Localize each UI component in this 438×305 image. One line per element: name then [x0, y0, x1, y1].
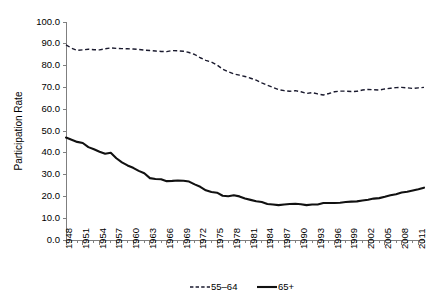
x-tick-label: 1990: [298, 228, 309, 249]
y-tick-label: 20.0: [42, 190, 61, 201]
x-tick-label: 1975: [214, 228, 225, 249]
y-tick-label: 50.0: [42, 125, 61, 136]
y-tick-label: 30.0: [42, 168, 61, 179]
y-tick-label: 40.0: [42, 146, 61, 157]
line-chart: 0.010.020.030.040.050.060.070.080.090.01…: [0, 0, 438, 305]
x-tick-label: 1951: [80, 228, 91, 249]
x-tick-label: 1987: [281, 228, 292, 249]
x-tick-label: 2005: [382, 228, 393, 249]
y-tick-label: 70.0: [42, 81, 61, 92]
x-tick-label: 1966: [164, 228, 175, 249]
y-tick-label: 0.0: [47, 234, 60, 245]
x-tick-label: 1969: [181, 228, 192, 249]
y-tick-label: 80.0: [42, 59, 61, 70]
x-tick-label: 1978: [231, 228, 242, 249]
x-tick-label: 1981: [248, 228, 259, 249]
x-tick-label: 2002: [365, 228, 376, 249]
x-tick-label: 1960: [130, 228, 141, 249]
x-tick-label: 1999: [348, 228, 359, 249]
x-tick-label: 1963: [147, 228, 158, 249]
x-tick-label: 1954: [97, 228, 108, 249]
x-tick-label: 1993: [315, 228, 326, 249]
chart-canvas: 0.010.020.030.040.050.060.070.080.090.01…: [0, 0, 438, 305]
series-line-5564: [66, 45, 424, 95]
x-tick-label: 1948: [63, 228, 74, 249]
x-tick-label: 1996: [332, 228, 343, 249]
y-tick-label: 10.0: [42, 212, 61, 223]
series-line-65+: [66, 138, 424, 206]
y-axis-title: Participation Rate: [13, 91, 24, 170]
x-tick-label: 2008: [399, 228, 410, 249]
legend-label: 65+: [278, 281, 295, 292]
x-tick-label: 1984: [264, 228, 275, 249]
y-tick-label: 60.0: [42, 103, 61, 114]
x-tick-label: 1957: [113, 228, 124, 249]
y-tick-label: 100.0: [36, 16, 60, 27]
x-tick-label: 2011: [416, 229, 427, 249]
legend-label: 55–64: [211, 281, 237, 292]
y-tick-label: 90.0: [42, 37, 61, 48]
x-tick-label: 1972: [197, 228, 208, 249]
